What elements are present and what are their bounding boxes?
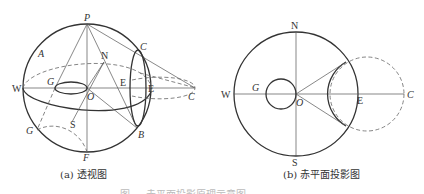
label-g-top: G bbox=[47, 76, 54, 87]
label-b: B bbox=[138, 129, 144, 140]
line-o-lower bbox=[296, 94, 346, 126]
panel-a-perspective: P A N C G W O E E C G S B F (a) 透视图 bbox=[12, 12, 196, 180]
caption-b: (b) 赤平面投影图 bbox=[283, 168, 360, 180]
line-o-upper bbox=[296, 62, 346, 94]
label-e-outer: E bbox=[148, 83, 154, 94]
label-w-b: W bbox=[221, 89, 231, 100]
caption-a: (a) 透视图 bbox=[60, 168, 107, 180]
label-n: N bbox=[101, 50, 108, 61]
arc-g-f-dashed bbox=[37, 126, 87, 152]
line-p-g bbox=[55, 24, 87, 88]
line-n-o bbox=[87, 62, 104, 88]
label-c-top: C bbox=[140, 41, 147, 52]
line-g-f-dashed bbox=[37, 88, 55, 130]
label-o-b: O bbox=[296, 97, 303, 108]
label-s: S bbox=[70, 119, 76, 130]
label-g-b: G bbox=[252, 82, 259, 93]
label-a: A bbox=[37, 48, 45, 59]
label-s-b: S bbox=[292, 157, 298, 168]
label-w: W bbox=[12, 83, 22, 94]
figure-caption: 图 — 赤平面投影原理示意图 bbox=[120, 188, 246, 194]
label-g-bottom: G bbox=[26, 125, 33, 136]
diagram-canvas: P A N C G W O E E C G S B F (a) 透视图 N W … bbox=[0, 0, 424, 194]
label-c-right: C bbox=[188, 91, 195, 102]
label-f: F bbox=[82, 152, 90, 163]
label-p: P bbox=[83, 12, 90, 23]
label-e-b: E bbox=[357, 95, 363, 106]
panel-b-projection: N W G O E C S (b) 赤平面投影图 bbox=[221, 20, 414, 180]
label-o: O bbox=[87, 91, 94, 102]
label-n-b: N bbox=[291, 20, 298, 31]
label-e-inner: E bbox=[120, 77, 126, 88]
label-c-b: C bbox=[407, 89, 414, 100]
